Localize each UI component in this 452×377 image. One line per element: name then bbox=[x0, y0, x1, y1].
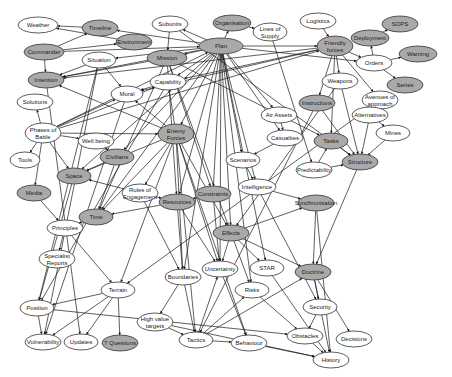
edge-organisation-to-lines_of_supply bbox=[249, 27, 255, 28]
node-label: Resources bbox=[163, 199, 192, 205]
node-label: Predictability bbox=[297, 167, 331, 173]
edge-commander-to-intention bbox=[45, 60, 46, 72]
node-boundaries: Boundaries bbox=[165, 269, 201, 285]
edge-friendly_forces-to-tasks bbox=[331, 56, 334, 133]
edge-situation-to-vulnerability bbox=[45, 68, 98, 334]
node-label: Capability bbox=[155, 79, 181, 85]
node-label: Weapons bbox=[327, 78, 352, 84]
concept-map-diagram: WeatherTimelineEnvironmentCommanderSitua… bbox=[0, 0, 452, 377]
node-label: Commander bbox=[27, 49, 60, 55]
node-structure: Structure bbox=[342, 154, 378, 170]
node-environment: Environment bbox=[116, 34, 152, 50]
node-label: Avenues of bbox=[365, 94, 395, 100]
node-organisation: Organisation bbox=[213, 15, 251, 31]
node-label: Phases of bbox=[30, 127, 57, 133]
node-label: Mines bbox=[385, 130, 401, 136]
node-uncertainty: Uncertainty bbox=[202, 261, 238, 277]
edge-tactics-to-behaviour bbox=[213, 341, 231, 342]
node-label: Principles bbox=[52, 225, 78, 231]
edge-security-to-obstacles bbox=[309, 315, 316, 328]
node-decisions: Decisions bbox=[336, 331, 372, 347]
node-situation: Situation bbox=[82, 52, 116, 68]
node-label: STAR bbox=[259, 265, 275, 271]
node-label: Subunits bbox=[158, 21, 181, 27]
node-casualties: Casualties bbox=[267, 130, 303, 146]
node-doctrine: Doctrine bbox=[295, 264, 331, 280]
edge-orders-to-series bbox=[384, 70, 396, 78]
edge-friendly_forces-to-weapons bbox=[336, 56, 338, 73]
node-label: Obstacles bbox=[292, 333, 319, 339]
node-security: Security bbox=[303, 299, 337, 315]
node-intention: Intention bbox=[28, 72, 64, 88]
node-label: approach bbox=[367, 101, 392, 107]
node-plan: Plan bbox=[199, 38, 243, 54]
node-constraints: Constraints bbox=[195, 186, 231, 202]
node-seven-questions: 7 Questions bbox=[102, 335, 138, 351]
node-label: Lines of bbox=[259, 26, 280, 32]
node-terrain: Terrain bbox=[101, 282, 135, 298]
node-predictability: Predictability bbox=[296, 162, 332, 178]
node-label: Tactics bbox=[187, 337, 205, 343]
node-obstacles: Obstacles bbox=[287, 328, 323, 344]
edge-alternatives-to-mines bbox=[379, 122, 384, 126]
node-history: History bbox=[313, 352, 349, 368]
edge-mission-to-tasks bbox=[179, 64, 319, 135]
node-commander: Commander bbox=[24, 44, 64, 60]
edge-phases_of_battle-to-tools bbox=[30, 142, 37, 152]
node-label: Rules of bbox=[129, 187, 151, 193]
node-label: Enemy bbox=[167, 128, 186, 134]
edge-mines-to-structure bbox=[368, 140, 385, 155]
node-label: Decisions bbox=[341, 336, 367, 342]
node-star: STAR bbox=[250, 260, 284, 276]
node-label: History bbox=[322, 357, 341, 363]
node-label: Organisation bbox=[215, 20, 249, 26]
node-scenarios: Scenarios bbox=[226, 152, 260, 168]
node-label: Scenarios bbox=[230, 157, 257, 163]
node-mission: Mission bbox=[147, 50, 187, 66]
node-label: Friendly bbox=[324, 40, 345, 46]
node-label: Supply bbox=[261, 33, 279, 39]
node-timeline: Timeline bbox=[82, 20, 118, 36]
edge-situation-to-moral bbox=[105, 67, 121, 86]
node-weapons: Weapons bbox=[322, 73, 358, 89]
edge-media-to-principles bbox=[41, 200, 59, 220]
node-label: Well being bbox=[82, 138, 110, 144]
node-alternatives: Alternatives bbox=[352, 107, 388, 123]
edge-constraints-to-resources bbox=[193, 198, 197, 199]
edge-phases_of_battle-to-space bbox=[50, 142, 69, 168]
node-label: Orders bbox=[365, 60, 383, 66]
node-series: Series bbox=[387, 77, 423, 93]
node-label: Air Assets bbox=[266, 112, 293, 118]
node-deployment: Deployment bbox=[351, 30, 389, 46]
node-label: High value bbox=[141, 316, 170, 322]
node-subunits: Subunits bbox=[152, 16, 188, 32]
node-time: Time bbox=[79, 209, 113, 225]
node-position: Position bbox=[20, 300, 54, 316]
node-label: Position bbox=[26, 305, 47, 311]
node-label: Solutions bbox=[23, 99, 48, 105]
node-friendly-forces: Friendlyforces bbox=[317, 36, 353, 56]
node-label: Alternatives bbox=[354, 112, 385, 118]
node-label: Constraints bbox=[198, 191, 228, 197]
node-label: Plan bbox=[215, 43, 227, 49]
edge-enemy_forces-to-effects bbox=[181, 144, 226, 226]
node-label: Weather bbox=[27, 22, 50, 28]
node-label: SOPS bbox=[392, 21, 409, 27]
node-label: Situation bbox=[87, 57, 110, 63]
node-label: Instructions bbox=[302, 100, 333, 106]
edge-space-to-position bbox=[39, 184, 72, 300]
node-air-assets: Air Assets bbox=[261, 107, 297, 123]
node-label: Intention bbox=[34, 77, 57, 83]
node-label: Time bbox=[89, 214, 103, 220]
node-label: Environment bbox=[117, 39, 151, 45]
edge-enemy_forces-to-moral bbox=[135, 101, 166, 126]
edge-structure-to-doctrine bbox=[316, 170, 356, 264]
edge-resources-to-time bbox=[112, 205, 161, 214]
node-label: Battle bbox=[35, 134, 51, 140]
edge-predictability-to-structure bbox=[331, 165, 343, 167]
node-avenues-of-approach: Avenues ofapproach bbox=[362, 91, 398, 109]
node-tasks: Tasks bbox=[314, 133, 348, 149]
edge-enemy_forces-to-intention bbox=[59, 85, 161, 128]
edge-plan-to-space bbox=[82, 53, 213, 169]
edge-predictability-to-tasks bbox=[319, 149, 327, 163]
